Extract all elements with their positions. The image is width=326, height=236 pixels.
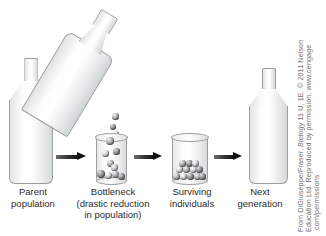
bottle-neck: [24, 58, 39, 83]
marble: [106, 137, 114, 145]
marble: [112, 113, 119, 120]
marble: [110, 124, 116, 130]
bottle-neck: [262, 68, 276, 91]
arrow-shaft: [134, 155, 154, 159]
marble: [111, 164, 118, 171]
bottleneck-cylinder: [96, 136, 127, 183]
marble: [118, 173, 125, 180]
arrow-head: [153, 152, 162, 160]
arrow-bottleneck-to-surviving: [134, 152, 162, 161]
figure-canvas: Parent population Bottleneck (drastic re…: [0, 0, 326, 236]
arrow-head: [233, 152, 242, 160]
marble: [97, 170, 105, 178]
next-generation-bottle: [249, 68, 288, 183]
attribution-line-3: .com/permissions: [312, 174, 321, 232]
arrow-head: [77, 152, 86, 160]
next-generation-marbles: [251, 96, 286, 181]
cylinder-rim: [171, 133, 209, 142]
caption-parent-population: Parent population: [0, 186, 66, 209]
marble: [102, 150, 109, 157]
arrow-shaft: [56, 155, 78, 159]
marble: [113, 148, 120, 155]
marble: [179, 160, 186, 167]
caption-bottleneck: Bottleneck (drastic reduction in populat…: [60, 186, 166, 221]
caption-surviving-individuals: Surviving individuals: [160, 186, 224, 209]
arrow-parent-to-bottleneck: [56, 152, 86, 161]
caption-next-generation: Next generation: [228, 186, 292, 209]
marble: [105, 172, 112, 179]
arrow-shaft: [214, 155, 234, 159]
surviving-individuals-cylinder: [172, 136, 208, 183]
attribution-block: From DiGiuseppe/Fraser. Biology 11 U, 1E…: [297, 0, 326, 236]
arrow-surviving-to-next: [214, 152, 242, 161]
